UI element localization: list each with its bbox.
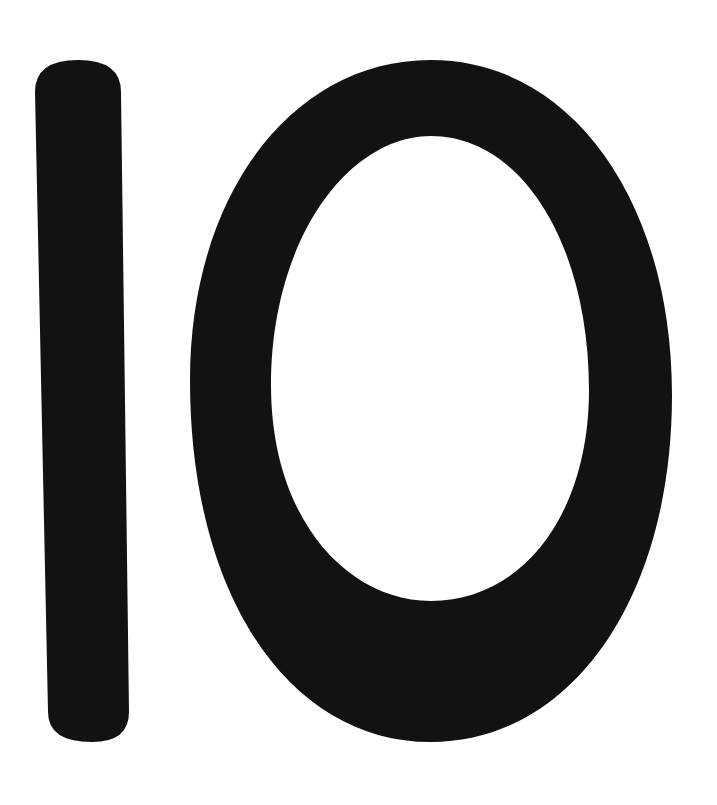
- number-ten-svg: [0, 0, 717, 805]
- digit-zero: [190, 60, 672, 742]
- number-ten-graphic: 10: [0, 0, 717, 805]
- digit-one: [35, 60, 129, 742]
